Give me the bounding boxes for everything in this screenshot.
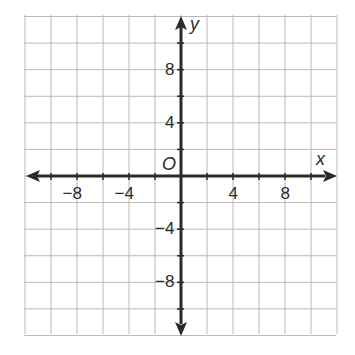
axes — [26, 16, 337, 336]
y-axis-label: y — [190, 15, 199, 33]
origin-label: O — [162, 155, 176, 173]
x-tick-label: 8 — [281, 185, 290, 202]
x-tick-label: −4 — [115, 185, 134, 202]
y-tick-label: −4 — [155, 220, 174, 237]
y-tick-label: −8 — [155, 273, 174, 290]
x-axis-label: x — [316, 150, 325, 168]
coordinate-plane — [0, 0, 355, 355]
x-tick-label: −8 — [63, 185, 82, 202]
y-tick-label: 4 — [165, 114, 174, 131]
y-tick-label: 8 — [165, 61, 174, 78]
x-tick-label: 4 — [229, 185, 238, 202]
